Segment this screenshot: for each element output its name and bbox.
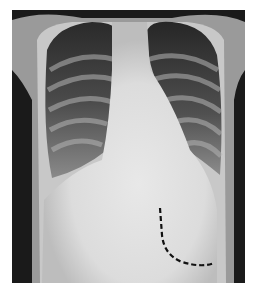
- chest-xray-image: [12, 10, 245, 283]
- xray-graphic: [12, 10, 245, 283]
